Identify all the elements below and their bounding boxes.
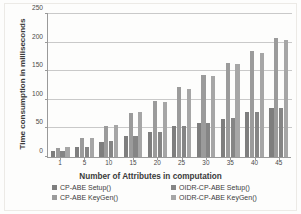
bar <box>211 76 215 157</box>
bar <box>90 138 94 157</box>
x-axis-tick-label: 25 <box>178 159 185 166</box>
bar <box>182 126 186 157</box>
bar-group: 25 <box>169 14 193 157</box>
bar <box>274 38 278 157</box>
y-axis-tick-label: 100 <box>32 89 43 96</box>
bar <box>138 112 142 157</box>
bar <box>129 113 133 157</box>
legend-swatch-icon <box>171 195 176 200</box>
bar <box>269 108 273 157</box>
bar <box>114 125 118 157</box>
legend-label: CP-ABE KeyGen() <box>60 194 118 201</box>
legend-item[interactable]: OIDR-CP-ABE KeyGen() <box>171 194 284 201</box>
y-axis-tick-label: 200 <box>32 32 43 39</box>
bar <box>153 101 157 157</box>
legend-label: OIDR-CP-ABE KeyGen() <box>179 194 257 201</box>
bar <box>80 138 84 157</box>
bar <box>279 108 283 157</box>
bar <box>260 53 264 157</box>
bar <box>197 123 201 157</box>
bar-group: 5 <box>72 14 96 157</box>
bar-group: 45 <box>267 14 291 157</box>
bar <box>124 136 128 157</box>
y-axis-tick-label: 250 <box>32 4 43 11</box>
x-axis-tick-label: 15 <box>129 159 136 166</box>
chart-legend: CP-ABE Setup()OIDR-CP-ABE Setup()CP-ABE … <box>52 184 284 201</box>
bar <box>245 112 249 157</box>
bar-group: 1 <box>48 14 72 157</box>
y-axis-tick-label: 150 <box>32 61 43 68</box>
bar-groups: 151015202530354045 <box>48 14 291 157</box>
bar <box>250 51 254 157</box>
bar <box>99 142 103 157</box>
bar <box>235 64 239 157</box>
x-axis-tick-label: 5 <box>83 159 87 166</box>
x-axis-tick-label: 10 <box>105 159 112 166</box>
x-axis-tick-label: 1 <box>58 159 62 166</box>
bar <box>226 63 230 157</box>
bar <box>109 141 113 157</box>
bar <box>231 118 235 157</box>
bar-group: 10 <box>97 14 121 157</box>
bar <box>65 147 69 157</box>
bar-group: 35 <box>218 14 242 157</box>
y-axis-title: Time consumption in milliseconds <box>18 8 30 160</box>
legend-item[interactable]: OIDR-CP-ABE Setup() <box>171 184 284 191</box>
bar <box>177 87 181 157</box>
plot-area-wrapper: 050100150200250 151015202530354045 <box>47 14 291 158</box>
bar <box>206 123 210 157</box>
x-axis-title: Number of Attributes in computation <box>0 172 301 181</box>
bar-group: 15 <box>121 14 145 157</box>
y-axis-tick-label: 0 <box>39 147 43 154</box>
bar-chart-figure: Time consumption in milliseconds 0501001… <box>0 0 301 214</box>
x-axis-tick-label: 40 <box>251 159 258 166</box>
bar <box>163 102 167 157</box>
x-axis-tick-label: 30 <box>202 159 209 166</box>
legend-item[interactable]: CP-ABE Setup() <box>52 184 165 191</box>
bar-group: 20 <box>145 14 169 157</box>
bar <box>158 132 162 157</box>
bar-group: 40 <box>242 14 266 157</box>
x-axis-tick-label: 45 <box>275 159 282 166</box>
legend-item[interactable]: CP-ABE KeyGen() <box>52 194 165 201</box>
bar <box>104 126 108 157</box>
bar <box>85 147 89 157</box>
legend-swatch-icon <box>171 185 176 190</box>
bar <box>133 136 137 157</box>
x-axis-tick-label: 35 <box>227 159 234 166</box>
bar <box>255 112 259 157</box>
plot-area: 050100150200250 151015202530354045 <box>47 14 291 158</box>
bar <box>201 75 205 157</box>
bar <box>51 151 55 157</box>
bar <box>221 119 225 157</box>
bar <box>148 132 152 157</box>
bar <box>56 148 60 157</box>
legend-swatch-icon <box>52 185 57 190</box>
bar <box>75 147 79 157</box>
legend-swatch-icon <box>52 195 57 200</box>
y-axis-tick-label: 50 <box>36 118 43 125</box>
bar <box>187 89 191 157</box>
x-axis-tick-label: 20 <box>154 159 161 166</box>
bar <box>172 126 176 157</box>
legend-label: OIDR-CP-ABE Setup() <box>179 184 250 191</box>
bar-group: 30 <box>194 14 218 157</box>
bar <box>284 40 288 157</box>
legend-label: CP-ABE Setup() <box>60 184 111 191</box>
